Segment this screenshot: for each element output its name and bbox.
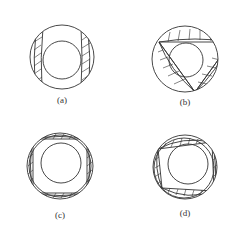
figure-label: (a) — [57, 95, 67, 105]
hatched-bands — [34, 27, 90, 89]
inner-circle — [43, 41, 81, 79]
figure-label: (b) — [180, 97, 191, 107]
square-hatched — [28, 134, 92, 198]
figure-label: (c) — [55, 210, 65, 220]
figure-a: (a) — [30, 25, 94, 105]
figure-c: (c) — [27, 133, 93, 220]
figure-label: (d) — [180, 208, 191, 218]
inner-circle — [168, 144, 208, 184]
diagram-canvas: (a) — [0, 0, 247, 225]
figure-d: (d) — [153, 135, 217, 218]
inner-circle — [169, 43, 203, 77]
figure-b: (b) — [152, 26, 231, 107]
inner-circle — [41, 143, 81, 183]
outer-circle-inner-ring — [29, 135, 91, 197]
